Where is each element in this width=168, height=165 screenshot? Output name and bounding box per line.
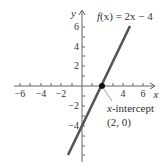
x-tick-label: 6	[141, 88, 146, 99]
x-tick-label: −4	[36, 88, 47, 99]
y-tick-label: −2	[68, 100, 79, 111]
y-tick-label: 4	[74, 41, 79, 52]
y-tick-label: 6	[74, 21, 79, 32]
x-tick-label: 4	[121, 88, 126, 99]
y-tick-label: −4	[68, 120, 79, 131]
intercept-label: x-intercept	[106, 102, 154, 114]
x-intercept-point	[99, 83, 105, 89]
function-label: f(x) = 2x − 4	[97, 10, 153, 23]
x-tick-label: −2	[56, 88, 67, 99]
intercept-coordinates: (2, 0)	[107, 116, 131, 129]
x-axis: −6 −4 −2 4 6 x	[14, 83, 159, 100]
annotation-leader-line	[103, 88, 112, 101]
y-axis-label: y	[70, 7, 76, 19]
x-axis-label: x	[153, 88, 159, 100]
y-tick-label: 2	[74, 60, 79, 71]
x-tick-label: −6	[15, 88, 26, 99]
function-graph: −6 −4 −2 4 6 x 6 4 2 −2 −4 y	[0, 0, 168, 165]
